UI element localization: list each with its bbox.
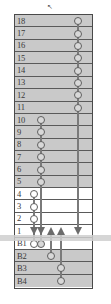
row-label: 7 <box>17 152 21 161</box>
row-label: 17 <box>17 29 25 38</box>
node-B3-0[interactable] <box>57 264 65 272</box>
row-label: 2 <box>17 214 21 223</box>
node-17-0[interactable] <box>74 30 82 38</box>
grid-row-8[interactable]: 8 <box>15 139 92 151</box>
row-label: 4 <box>17 190 21 199</box>
grid-row-B4[interactable]: B4 <box>15 275 92 287</box>
separator-band <box>0 235 111 241</box>
row-label: B3 <box>17 264 27 273</box>
strand-line-4 <box>77 21 79 231</box>
node-4-0[interactable] <box>30 190 38 198</box>
node-B2-0[interactable] <box>47 252 55 260</box>
grid-row-4[interactable]: 4 <box>15 188 92 200</box>
grid-frame: 181716151413121110987654321B1B2B3B4 <box>14 14 93 289</box>
node-8-0[interactable] <box>37 141 45 149</box>
node-7-0[interactable] <box>37 153 45 161</box>
row-label: 5 <box>17 177 21 186</box>
strand-diagram-figure: ↖ 181716151413121110987654321B1B2B3B4 <box>0 0 111 304</box>
grid-row-6[interactable]: 6 <box>15 163 92 175</box>
row-label: 13 <box>17 78 25 87</box>
node-15-0[interactable] <box>74 54 82 62</box>
node-16-0[interactable] <box>74 42 82 50</box>
node-9-0[interactable] <box>37 128 45 136</box>
row-label: B2 <box>17 251 27 260</box>
grid-row-B3[interactable]: B3 <box>15 262 92 274</box>
node-2-0[interactable] <box>30 215 38 223</box>
row-label: B4 <box>17 277 27 286</box>
row-label: 16 <box>17 41 25 50</box>
row-label: 6 <box>17 165 21 174</box>
row-label: 15 <box>17 54 25 63</box>
node-11-0[interactable] <box>74 104 82 112</box>
node-18-0[interactable] <box>74 17 82 25</box>
row-label: 1 <box>17 227 21 236</box>
grid-row-10[interactable]: 10 <box>15 114 92 126</box>
row-label: 8 <box>17 140 21 149</box>
grid-row-9[interactable]: 9 <box>15 126 92 138</box>
node-10-0[interactable] <box>37 116 45 124</box>
row-label: 14 <box>17 66 25 75</box>
row-label: 12 <box>17 91 25 100</box>
row-label: 3 <box>17 202 21 211</box>
row-label: 10 <box>17 115 25 124</box>
node-6-0[interactable] <box>37 166 45 174</box>
grid-row-7[interactable]: 7 <box>15 151 92 163</box>
node-5-0[interactable] <box>37 178 45 186</box>
grid-row-5[interactable]: 5 <box>15 176 92 188</box>
node-13-0[interactable] <box>74 79 82 87</box>
row-label: 11 <box>17 103 25 112</box>
node-12-0[interactable] <box>74 91 82 99</box>
pointer-arrow-icon: ↖ <box>47 4 53 11</box>
grid-row-2[interactable]: 2 <box>15 213 92 225</box>
row-label: 18 <box>17 16 25 25</box>
node-B4-0[interactable] <box>57 277 65 285</box>
row-label: 9 <box>17 128 21 137</box>
grid-row-3[interactable]: 3 <box>15 200 92 212</box>
node-3-0[interactable] <box>30 203 38 211</box>
node-14-0[interactable] <box>74 67 82 75</box>
